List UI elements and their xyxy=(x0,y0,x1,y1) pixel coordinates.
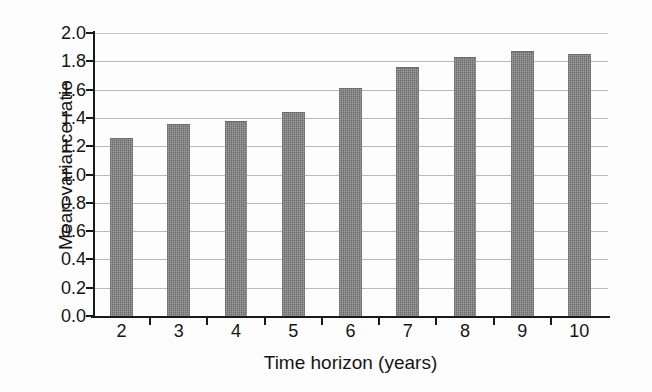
y-axis-tick-label: 1.6 xyxy=(61,81,86,99)
y-axis-tick xyxy=(86,258,93,260)
y-axis-tick-label: 1.4 xyxy=(61,109,86,127)
y-axis-tick xyxy=(86,145,93,147)
y-axis-tick-label: 2.0 xyxy=(61,24,86,42)
bar xyxy=(282,112,305,316)
bar-chart-figure: Mean-variance ratio 0.00.20.40.60.81.01.… xyxy=(0,0,652,392)
x-axis-tick-label: 6 xyxy=(345,322,355,340)
x-axis-tick-label: 7 xyxy=(403,322,413,340)
x-axis-title: Time horizon (years) xyxy=(93,352,608,374)
y-axis-tick-label: 1.2 xyxy=(61,137,86,155)
x-axis-tick-label: 2 xyxy=(117,322,127,340)
x-axis-tick-labels: 2345678910 xyxy=(93,322,608,350)
y-axis-line xyxy=(93,31,95,318)
y-axis-tick-label: 0.4 xyxy=(61,250,86,268)
y-axis-tick xyxy=(86,230,93,232)
y-axis-tick-label: 0.6 xyxy=(61,222,86,240)
x-axis-tick-label: 8 xyxy=(460,322,470,340)
bar xyxy=(167,124,190,316)
plot-area xyxy=(93,33,608,316)
y-axis-tick-label: 0.2 xyxy=(61,279,86,297)
x-axis-tick-label: 4 xyxy=(231,322,241,340)
bar-series xyxy=(93,33,608,316)
y-axis-tick-labels: 0.00.20.40.60.81.01.21.41.61.82.0 xyxy=(42,33,86,316)
bar xyxy=(568,54,591,316)
x-axis-tick-label: 3 xyxy=(174,322,184,340)
x-axis-tick-label: 5 xyxy=(288,322,298,340)
y-axis-tick xyxy=(86,202,93,204)
y-axis-tick xyxy=(86,60,93,62)
y-axis-tick xyxy=(86,174,93,176)
bar xyxy=(110,138,133,316)
y-axis-tick-label: 0.8 xyxy=(61,194,86,212)
x-axis-tick-label: 10 xyxy=(569,322,589,340)
y-axis-tick xyxy=(86,287,93,289)
y-axis-tick-label: 0.0 xyxy=(61,307,86,325)
bar xyxy=(511,51,534,316)
y-axis-tick xyxy=(86,117,93,119)
y-axis-tick-label: 1.8 xyxy=(61,52,86,70)
bar xyxy=(339,88,362,316)
y-axis-tick xyxy=(86,89,93,91)
x-axis-line xyxy=(91,316,610,318)
bar xyxy=(396,67,419,316)
x-axis-tick-label: 9 xyxy=(517,322,527,340)
bar xyxy=(225,121,248,316)
bar xyxy=(454,57,477,316)
y-axis-tick xyxy=(86,32,93,34)
y-axis-tick-label: 1.0 xyxy=(61,166,86,184)
